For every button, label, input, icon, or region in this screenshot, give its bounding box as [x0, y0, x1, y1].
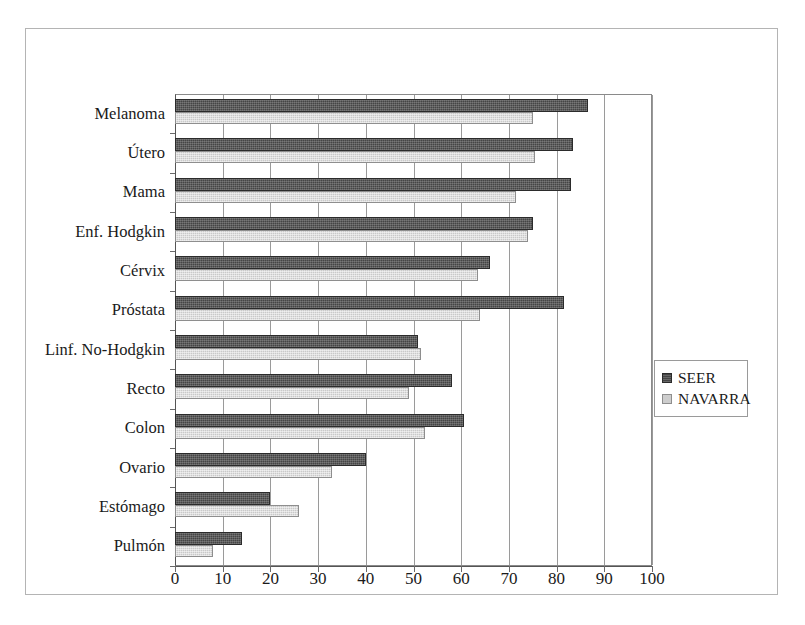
bar-navarra [175, 427, 425, 439]
category-label: Cérvix [0, 263, 165, 280]
bar-navarra [175, 505, 299, 517]
bar-group [175, 94, 652, 133]
category-label: Próstata [0, 302, 165, 319]
category-label: Colon [0, 420, 165, 437]
legend-label-seer: SEER [678, 369, 716, 387]
x-axis-label: 50 [405, 569, 422, 589]
x-axis-label: 80 [548, 569, 565, 589]
bar-seer [175, 256, 490, 269]
x-axis-label: 20 [262, 569, 279, 589]
bar-group [175, 133, 652, 172]
bar-group [175, 487, 652, 526]
category-label: Estómago [0, 499, 165, 516]
x-axis-label: 70 [500, 569, 517, 589]
category-label: Útero [0, 145, 165, 162]
bar-seer [175, 492, 270, 505]
gridline [652, 95, 653, 565]
legend-item-seer[interactable]: SEER [662, 367, 740, 388]
category-label: Linf. No-Hodgkin [0, 342, 165, 359]
bar-group [175, 212, 652, 251]
x-axis-label: 100 [639, 569, 665, 589]
x-axis-label: 90 [596, 569, 613, 589]
bar-navarra [175, 112, 533, 124]
bar-group [175, 369, 652, 408]
bar-group [175, 448, 652, 487]
bar-group [175, 251, 652, 290]
category-label: Mama [0, 184, 165, 201]
bar-seer [175, 138, 573, 151]
bar-navarra [175, 348, 421, 360]
bar-group [175, 330, 652, 369]
bar-seer [175, 99, 588, 112]
legend-swatch-seer-icon [662, 373, 672, 383]
bar-seer [175, 374, 452, 387]
category-label: Recto [0, 381, 165, 398]
legend-swatch-navarra-icon [662, 394, 672, 404]
bar-navarra [175, 466, 332, 478]
category-label: Enf. Hodgkin [0, 224, 165, 241]
legend-item-navarra[interactable]: NAVARRA [662, 388, 740, 409]
bar-navarra [175, 191, 516, 203]
bar-seer [175, 178, 571, 191]
bar-seer [175, 296, 564, 309]
x-axis-label: 0 [171, 569, 180, 589]
bar-group [175, 409, 652, 448]
bar-navarra [175, 309, 480, 321]
chart-legend: SEER NAVARRA [654, 360, 748, 417]
x-axis-label: 40 [357, 569, 374, 589]
category-label: Ovario [0, 460, 165, 477]
bar-navarra [175, 230, 528, 242]
bar-group [175, 291, 652, 330]
legend-label-navarra: NAVARRA [678, 390, 751, 408]
bar-navarra [175, 387, 409, 399]
bar-navarra [175, 269, 478, 281]
bar-seer [175, 414, 464, 427]
bar-navarra [175, 545, 213, 557]
category-label: Melanoma [0, 106, 165, 123]
x-axis-label: 10 [214, 569, 231, 589]
bar-seer [175, 532, 242, 545]
bar-seer [175, 217, 533, 230]
bar-seer [175, 453, 366, 466]
bar-group [175, 527, 652, 566]
category-label: Pulmón [0, 538, 165, 555]
bar-seer [175, 335, 418, 348]
x-axis-label: 60 [453, 569, 470, 589]
bar-group [175, 173, 652, 212]
chart-figure: MelanomaÚteroMamaEnf. HodgkinCérvixPróst… [25, 28, 778, 595]
bar-navarra [175, 151, 535, 163]
x-axis-label: 30 [310, 569, 327, 589]
